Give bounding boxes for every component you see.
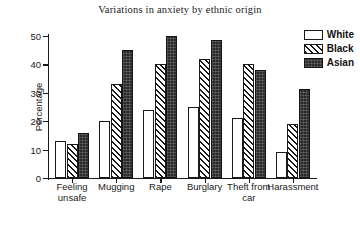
legend-swatch-asian-icon: [304, 58, 323, 68]
y-axis-tick: [43, 36, 48, 37]
bar-group: [188, 36, 222, 178]
y-axis-tick-label: 20: [30, 116, 41, 127]
bar-black-feeling-unsafe[interactable]: [67, 144, 78, 178]
bar-asian-harassment[interactable]: [299, 89, 310, 178]
y-axis-tick-label: 10: [30, 144, 41, 155]
bar-black-mugging[interactable]: [111, 84, 122, 178]
bar-white-mugging[interactable]: [99, 121, 110, 178]
legend-item-white[interactable]: White: [304, 29, 354, 40]
bar-white-burglary[interactable]: [188, 107, 199, 178]
bar-black-burglary[interactable]: [199, 59, 210, 178]
legend-label-black: Black: [327, 43, 354, 54]
x-axis-label: Harassment: [267, 182, 319, 193]
legend-item-asian[interactable]: Asian: [304, 57, 354, 68]
legend-swatch-white-icon: [304, 30, 323, 40]
bar-white-harassment[interactable]: [276, 152, 287, 178]
y-axis-tick: [43, 150, 48, 151]
bar-asian-mugging[interactable]: [122, 50, 133, 178]
y-axis-tick-label: 50: [30, 31, 41, 42]
y-axis-tick-label: 0: [36, 173, 41, 184]
bar-asian-feeling-unsafe[interactable]: [78, 133, 89, 178]
bar-black-harassment[interactable]: [287, 124, 298, 178]
bar-white-rape[interactable]: [143, 110, 154, 178]
chart-legend: White Black Asian: [304, 29, 354, 68]
legend-label-asian: Asian: [327, 57, 354, 68]
bar-group: [99, 36, 133, 178]
bar-black-rape[interactable]: [155, 64, 166, 178]
bar-group: [55, 36, 89, 178]
legend-label-white: White: [327, 29, 354, 40]
y-axis-tick: [43, 121, 48, 122]
chart-title: Variations in anxiety by ethnic origin: [0, 4, 360, 15]
legend-swatch-black-icon: [304, 44, 323, 54]
bar-white-theft-from-car[interactable]: [232, 118, 243, 178]
bar-asian-theft-from-car[interactable]: [255, 70, 266, 178]
plot-area: Percentage 01020304050: [48, 36, 313, 178]
y-axis-tick-label: 30: [30, 87, 41, 98]
chart-container: Variations in anxiety by ethnic origin P…: [0, 0, 360, 230]
bar-black-theft-from-car[interactable]: [243, 64, 254, 178]
bar-group: [143, 36, 177, 178]
y-axis-tick: [43, 178, 48, 179]
bar-asian-burglary[interactable]: [211, 40, 222, 178]
y-axis-tick: [43, 93, 48, 94]
legend-item-black[interactable]: Black: [304, 43, 354, 54]
bar-group: [232, 36, 266, 178]
y-axis-tick: [43, 64, 48, 65]
bar-asian-rape[interactable]: [166, 36, 177, 178]
bar-white-feeling-unsafe[interactable]: [55, 141, 66, 178]
y-axis-tick-label: 40: [30, 59, 41, 70]
